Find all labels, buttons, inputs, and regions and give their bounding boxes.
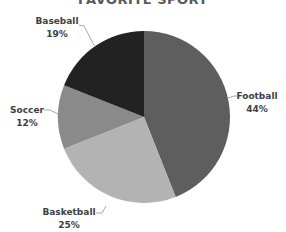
label-name: Baseball — [35, 16, 78, 26]
data-label-soccer: Soccer 12% — [10, 105, 44, 128]
data-label-baseball: Baseball 19% — [35, 16, 78, 39]
data-label-football: Football 44% — [236, 91, 277, 114]
pie-chart: FAVORITE SPORT Baseball 19% Football 44%… — [0, 0, 286, 232]
label-name: Basketball — [42, 207, 95, 217]
leader-line-baseball — [79, 25, 95, 47]
label-value: 19% — [46, 29, 68, 39]
pie — [58, 31, 230, 203]
label-name: Football — [236, 91, 277, 101]
leader-line-soccer — [44, 110, 58, 114]
data-label-basketball: Basketball 25% — [42, 207, 95, 230]
label-name: Soccer — [10, 105, 44, 115]
label-value: 12% — [16, 118, 38, 128]
leader-line-basketball — [96, 206, 106, 213]
label-value: 44% — [246, 104, 268, 114]
label-value: 25% — [58, 220, 80, 230]
chart-title: FAVORITE SPORT — [78, 0, 208, 7]
